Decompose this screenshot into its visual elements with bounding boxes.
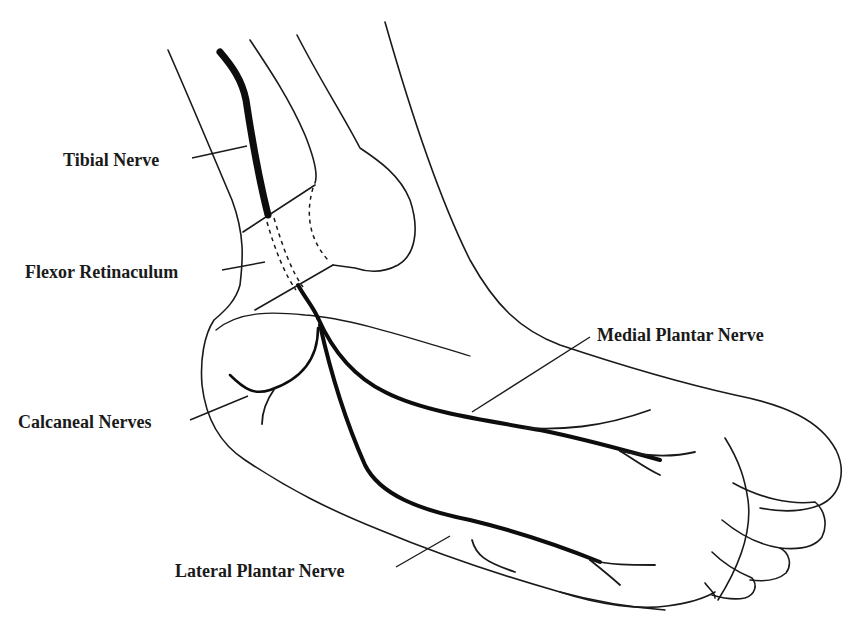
retinaculum-hidden-left bbox=[267, 222, 296, 290]
medial-malleolus-outline bbox=[297, 35, 415, 271]
retinaculum-hidden-right bbox=[309, 188, 328, 260]
calcaneal-nerve-main bbox=[230, 328, 318, 392]
label-tibial-nerve: Tibial Nerve bbox=[63, 150, 159, 170]
calcaneal-nerve-branch bbox=[262, 388, 275, 424]
heel-pad-line bbox=[216, 313, 470, 356]
label-medial-plantar-nerve: Medial Plantar Nerve bbox=[597, 325, 764, 345]
diagram-canvas: Tibial Nerve Flexor Retinaculum Calcanea… bbox=[0, 0, 856, 623]
label-lateral-plantar-nerve: Lateral Plantar Nerve bbox=[175, 561, 345, 581]
toe-big-outline bbox=[718, 438, 749, 600]
label-calcaneal-nerves: Calcaneal Nerves bbox=[18, 412, 151, 432]
flexor-retinaculum-shape bbox=[243, 185, 333, 310]
leader-flexor-retinaculum bbox=[222, 262, 265, 270]
leader-medial-plantar-nerve bbox=[472, 337, 590, 412]
lateral-plantar-nerve-path bbox=[320, 325, 600, 562]
posterior-leg-outline bbox=[168, 50, 665, 610]
foot-nerve-illustration: Tibial Nerve Flexor Retinaculum Calcanea… bbox=[0, 0, 856, 623]
labels: Tibial Nerve Flexor Retinaculum Calcanea… bbox=[18, 150, 764, 581]
leader-calcaneal-nerves bbox=[190, 396, 248, 420]
anterior-leg-outline bbox=[385, 22, 841, 511]
toe-3-outline bbox=[722, 520, 789, 581]
tibial-nerve-below-retinaculum bbox=[298, 285, 318, 318]
toe-4-outline bbox=[712, 552, 755, 599]
leader-tibial-nerve bbox=[192, 146, 247, 158]
leader-lateral-plantar-nerve bbox=[396, 536, 450, 567]
nerves bbox=[220, 52, 695, 585]
label-flexor-retinaculum: Flexor Retinaculum bbox=[25, 262, 178, 282]
leader-lines bbox=[190, 146, 590, 567]
retinaculum-upper-edge bbox=[243, 185, 315, 232]
foot-outline bbox=[168, 22, 841, 610]
sole-outline bbox=[560, 592, 715, 607]
medial-plantar-branch-1 bbox=[525, 410, 650, 429]
